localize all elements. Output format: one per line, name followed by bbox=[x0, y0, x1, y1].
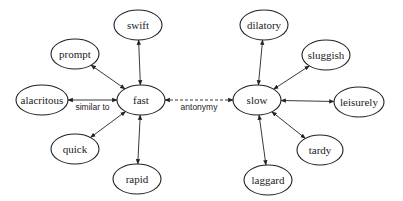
node-label-quick: quick bbox=[63, 143, 88, 155]
node-leisurely: leisurely bbox=[334, 87, 384, 117]
edge-label-fast-alacritous: similar to bbox=[75, 102, 109, 112]
node-quick: quick bbox=[51, 134, 99, 164]
node-dilatory: dilatory bbox=[240, 10, 288, 40]
edge-slow-sluggish bbox=[274, 66, 310, 89]
node-label-fast: fast bbox=[133, 94, 149, 106]
node-label-prompt: prompt bbox=[59, 48, 91, 60]
node-label-sluggish: sluggish bbox=[308, 49, 345, 61]
node-sluggish: sluggish bbox=[302, 40, 350, 70]
node-label-rapid: rapid bbox=[126, 173, 149, 185]
node-alacritous: alacritous bbox=[16, 85, 68, 115]
node-label-laggard: laggard bbox=[252, 174, 285, 186]
node-prompt: prompt bbox=[51, 39, 99, 69]
edge-label-fast-slow: antonymy bbox=[181, 102, 219, 112]
edge-fast-rapid bbox=[138, 115, 140, 164]
edge-fast-quick bbox=[90, 111, 125, 137]
node-label-dilatory: dilatory bbox=[247, 19, 282, 31]
edge-fast-prompt bbox=[91, 65, 125, 89]
edge-slow-tardy bbox=[272, 112, 306, 139]
node-slow: slow bbox=[233, 85, 281, 115]
node-laggard: laggard bbox=[244, 165, 292, 195]
node-tardy: tardy bbox=[297, 135, 343, 165]
node-label-slow: slow bbox=[247, 94, 268, 106]
edge-slow-leisurely bbox=[281, 100, 334, 101]
node-label-swift: swift bbox=[127, 19, 149, 31]
node-rapid: rapid bbox=[113, 164, 161, 194]
node-swift: swift bbox=[114, 10, 162, 40]
node-fast: fast bbox=[117, 85, 165, 115]
synonym-antonym-diagram: fastslowswiftpromptalacritousquickrapidd… bbox=[0, 0, 403, 201]
node-label-alacritous: alacritous bbox=[21, 94, 64, 106]
node-label-tardy: tardy bbox=[309, 144, 332, 156]
edge-fast-swift bbox=[139, 40, 141, 85]
node-label-leisurely: leisurely bbox=[340, 96, 378, 108]
edge-slow-laggard bbox=[259, 115, 266, 165]
edge-slow-dilatory bbox=[258, 40, 262, 85]
